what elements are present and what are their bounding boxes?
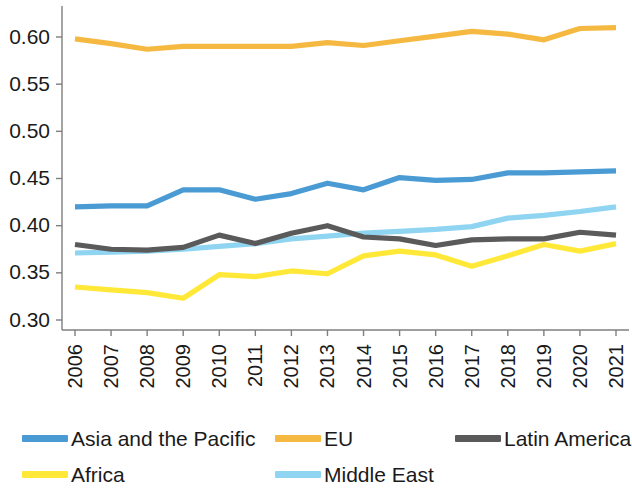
y-axis-tick-label: 0.30	[9, 308, 50, 331]
legend-item-eu[interactable]: EU	[275, 428, 455, 449]
chart-legend: Asia and the Pacific EU Latin America Af…	[0, 414, 632, 491]
y-axis-tick-label: 0.55	[9, 72, 50, 95]
x-axis-tick-label: 2010	[208, 344, 230, 389]
axis-group	[62, 6, 629, 330]
legend-swatch-latin-america	[455, 435, 501, 442]
series-line-asia-and-the-pacific	[75, 171, 616, 207]
x-axis-tick-label: 2017	[461, 344, 483, 389]
x-axis-tick-label: 2016	[425, 344, 447, 389]
x-axis-label-group: 2006200720082009201020112012201320142015…	[64, 344, 627, 389]
x-axis-tick-label: 2020	[569, 344, 591, 389]
x-axis-tick-group	[75, 330, 616, 336]
legend-label-asia-and-the-pacific: Asia and the Pacific	[71, 428, 255, 449]
legend-label-middle-east: Middle East	[324, 464, 434, 485]
y-axis-tick-label: 0.60	[9, 25, 50, 48]
x-axis-tick-label: 2021	[605, 344, 627, 389]
legend-item-africa[interactable]: Africa	[0, 464, 275, 485]
y-axis-tick-label: 0.45	[9, 166, 50, 189]
x-axis-tick-label: 2011	[244, 344, 266, 387]
legend-swatch-asia-and-the-pacific	[22, 435, 68, 442]
x-axis-tick-label: 2015	[389, 344, 411, 389]
legend-item-middle-east[interactable]: Middle East	[275, 464, 455, 485]
x-axis-tick-label: 2007	[100, 344, 122, 389]
x-axis-tick-label: 2012	[280, 344, 302, 389]
y-axis-tick-label: 0.35	[9, 260, 50, 283]
legend-swatch-middle-east	[275, 471, 321, 478]
plot-area: 0.300.350.400.450.500.550.60 20062007200…	[0, 0, 632, 412]
x-axis-tick-label: 2019	[533, 344, 555, 389]
legend-swatch-africa	[22, 471, 68, 478]
legend-label-latin-america: Latin America	[504, 428, 631, 449]
y-axis-tick-group: 0.300.350.400.450.500.550.60	[9, 25, 62, 331]
x-axis-tick-label: 2014	[353, 344, 375, 389]
x-axis-tick-label: 2008	[136, 344, 158, 389]
legend-label-eu: EU	[324, 428, 353, 449]
chart-canvas: 0.300.350.400.450.500.550.60 20062007200…	[0, 0, 632, 412]
y-axis-tick-label: 0.40	[9, 213, 50, 236]
x-axis-tick-label: 2018	[497, 344, 519, 389]
legend-row-1: Asia and the Pacific EU Latin America	[0, 420, 632, 456]
legend-row-2: Africa Middle East	[0, 456, 632, 491]
x-axis-tick-label: 2013	[316, 344, 338, 389]
y-axis-tick-label: 0.50	[9, 119, 50, 142]
legend-swatch-eu	[275, 435, 321, 442]
x-axis-tick-label: 2009	[172, 344, 194, 389]
legend-label-africa: Africa	[71, 464, 125, 485]
x-axis-tick-label: 2006	[64, 344, 86, 389]
legend-item-asia-and-the-pacific[interactable]: Asia and the Pacific	[0, 428, 275, 449]
legend-item-latin-america[interactable]: Latin America	[455, 428, 632, 449]
series-group	[75, 28, 616, 299]
line-chart: 0.300.350.400.450.500.550.60 20062007200…	[0, 0, 632, 491]
series-line-eu	[75, 28, 616, 50]
